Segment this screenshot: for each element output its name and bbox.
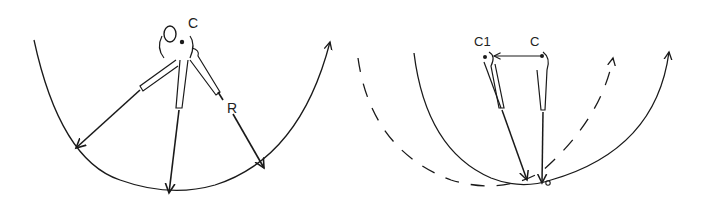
label-c: C <box>188 15 198 31</box>
center-point-c <box>180 40 184 44</box>
gymnast-figure <box>140 26 220 108</box>
swing-arc-dashed <box>358 58 613 186</box>
radius-line-shifted <box>502 110 527 180</box>
right-figure-center-shift: C1 C <box>351 0 702 210</box>
gymnast-head <box>164 26 176 42</box>
left-diagram-canvas: C R <box>0 0 351 210</box>
label-r: R <box>227 100 237 116</box>
radius-arrow-left <box>76 90 140 148</box>
left-figure-swing-radius: C R <box>0 0 351 210</box>
radius-arrow-right-lower <box>233 114 264 168</box>
radius-arrow-center <box>169 110 179 193</box>
right-diagram-canvas: C1 C <box>351 0 702 210</box>
label-c1: C1 <box>474 34 491 49</box>
radius-line-original <box>542 112 543 183</box>
gymnast-figure-original <box>537 52 548 110</box>
swing-arc-solid <box>414 52 669 185</box>
swing-arc <box>34 40 330 190</box>
label-c: C <box>530 34 539 49</box>
gymnast-figure-shifted <box>483 52 504 108</box>
radius-arrow-right <box>218 92 223 100</box>
center-point-c1 <box>483 55 487 59</box>
